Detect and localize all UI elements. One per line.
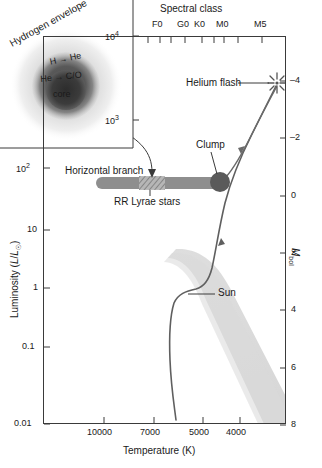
annotation-clump: Clump <box>196 140 225 150</box>
left-axis-title-l1: L <box>9 259 20 265</box>
top-tick-m5: M5 <box>254 20 267 29</box>
diagram-canvas <box>0 0 322 468</box>
hr-diagram-figure: Spectral class F0 G0 K0 M0 M5 104 103 10… <box>0 0 322 468</box>
track-arrowhead-up <box>218 238 225 246</box>
clump-marker <box>210 172 230 192</box>
bottom-tick-10000: 10000 <box>87 428 112 437</box>
left-axis-title: Luminosity (L/L☉) <box>10 241 22 318</box>
left-axis-title-slash: / <box>9 256 20 259</box>
main-sequence-band <box>164 249 300 428</box>
annotation-sun: Sun <box>218 288 236 298</box>
right-tick-0: 0 <box>291 191 296 200</box>
right-tick-m4: –4 <box>290 76 300 85</box>
left-tick-1: 1 <box>33 283 38 292</box>
left-tick-0-1: 0.1 <box>22 342 35 351</box>
right-tick-8: 8 <box>291 420 296 429</box>
helium-flash-starburst <box>268 73 286 93</box>
right-tick-m2: –2 <box>290 133 300 142</box>
top-axis-title: Spectral class <box>160 4 222 14</box>
left-axis-title-l2: L <box>9 250 20 256</box>
left-tick-1e2-mantissa: 10 <box>16 164 26 174</box>
left-tick-10: 10 <box>27 225 37 234</box>
post-flash-track <box>226 86 277 177</box>
top-tick-f0: F0 <box>152 20 163 29</box>
left-tick-1e3-exponent: 3 <box>115 114 119 121</box>
left-tick-1e2-exponent: 2 <box>26 162 30 169</box>
left-tick-1e3-mantissa: 10 <box>105 116 115 126</box>
right-tick-6: 6 <box>291 363 296 372</box>
inset-label-core: core <box>53 90 71 99</box>
annotation-rr-lyrae-stars: RR Lyrae stars <box>114 197 180 207</box>
left-tick-1e4: 104 <box>105 30 119 42</box>
top-tick-k0: K0 <box>194 20 205 29</box>
left-tick-0-01: 0.01 <box>14 419 32 428</box>
bottom-axis-title: Temperature (K) <box>123 446 195 456</box>
top-tick-m0: M0 <box>216 20 229 29</box>
left-axis-title-post: ) <box>9 241 20 244</box>
rr-lyrae-patch <box>139 176 165 190</box>
bottom-tick-5000: 5000 <box>189 428 209 437</box>
top-tick-g0: G0 <box>177 20 189 29</box>
left-tick-1e4-exponent: 4 <box>115 30 119 37</box>
left-axis-title-sun-sub: ☉ <box>15 244 22 250</box>
top-axis-ticks <box>148 37 262 43</box>
left-tick-1e2: 102 <box>16 162 30 174</box>
right-axis-title: Mbol <box>288 248 300 266</box>
bottom-tick-7000: 7000 <box>140 428 160 437</box>
left-tick-1e3: 103 <box>105 114 119 126</box>
right-tick-4: 4 <box>291 305 296 314</box>
bottom-tick-4000: 4000 <box>226 428 246 437</box>
annotation-horizontal-branch: Horizontal branch <box>65 166 143 176</box>
leader-clump <box>211 152 217 174</box>
left-axis-title-pre: Luminosity ( <box>9 264 20 318</box>
bottom-axis-ticks <box>104 417 240 423</box>
right-axis-title-sub: bol <box>288 256 295 265</box>
left-tick-1e4-mantissa: 10 <box>105 32 115 42</box>
annotation-helium-flash: Helium flash <box>186 78 241 88</box>
